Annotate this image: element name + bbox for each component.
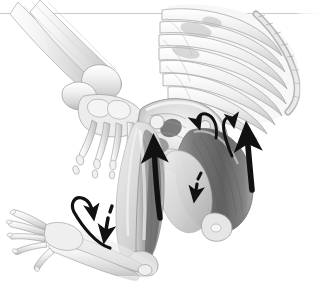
anatomy-figure: Grayscale medical illustration showing a… [0, 0, 322, 292]
hand-skeleton [6, 209, 83, 273]
tibia-fibula [10, 0, 122, 110]
anatomy-illustration [0, 0, 322, 292]
arrow-forearm-down [105, 206, 112, 236]
